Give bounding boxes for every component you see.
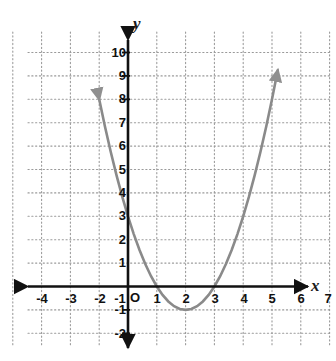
y-tick-label-4: 4 (102, 186, 126, 199)
x-tick-label-2: 2 (177, 292, 195, 305)
y-tick-label-1: 1 (102, 256, 126, 269)
x-tick-label-7: 7 (321, 292, 335, 305)
y-tick-label-6: 6 (102, 139, 126, 152)
x-tick-label-1: 1 (148, 292, 166, 305)
graph-figure: x y O -4 -3 -2 -1 1 2 3 4 5 6 7 10 9 8 7… (0, 0, 336, 361)
x-tick-label-6: 6 (292, 292, 310, 305)
y-tick-label-3: 3 (102, 209, 126, 222)
x-axis-label: x (311, 276, 320, 296)
x-tick-label--3: -3 (62, 292, 80, 305)
y-tick-label-5: 5 (102, 163, 126, 176)
y-tick-label--1: -1 (100, 303, 126, 316)
y-tick-label-9: 9 (102, 69, 126, 82)
y-tick-label--2: -2 (100, 327, 126, 340)
y-tick-label-2: 2 (102, 233, 126, 246)
vertical-gridlines (13, 32, 330, 345)
y-axis-label: y (133, 14, 141, 34)
y-tick-label-10: 10 (102, 46, 126, 59)
x-tick-label-4: 4 (235, 292, 253, 305)
x-tick-label-5: 5 (263, 292, 281, 305)
origin-label: O (130, 291, 140, 304)
x-tick-label--4: -4 (33, 292, 51, 305)
y-tick-label-7: 7 (102, 116, 126, 129)
x-tick-label-3: 3 (206, 292, 224, 305)
coordinate-plane-svg (0, 0, 336, 361)
y-tick-label-8: 8 (102, 92, 126, 105)
